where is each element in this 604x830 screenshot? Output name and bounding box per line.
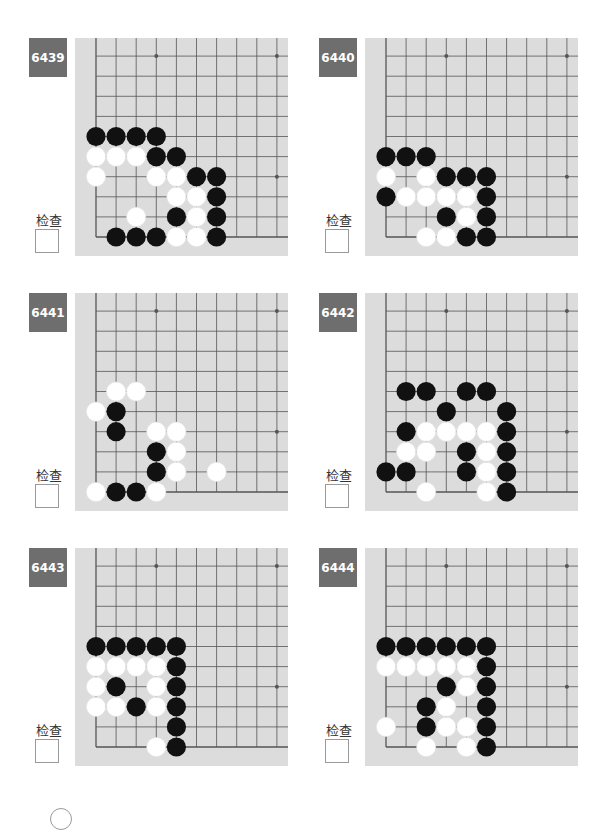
white-stone bbox=[167, 442, 186, 461]
white-stone bbox=[86, 677, 105, 696]
problem-number: 6440 bbox=[319, 38, 357, 77]
white-stone bbox=[86, 657, 105, 676]
white-stone bbox=[107, 697, 126, 716]
white-stone bbox=[147, 657, 166, 676]
check-label: 检查 bbox=[325, 465, 353, 484]
white-stone bbox=[437, 717, 456, 736]
black-stone bbox=[147, 462, 166, 481]
white-stone bbox=[167, 422, 186, 441]
black-stone bbox=[127, 482, 146, 501]
star-point bbox=[444, 564, 448, 568]
check-box[interactable] bbox=[35, 229, 59, 253]
problem-panel: 6443检查 bbox=[29, 548, 299, 768]
white-stone bbox=[477, 462, 496, 481]
go-board bbox=[75, 293, 288, 511]
white-stone bbox=[457, 207, 476, 226]
star-point bbox=[275, 685, 279, 689]
black-stone bbox=[477, 697, 496, 716]
problem-number: 6443 bbox=[29, 548, 67, 587]
black-stone bbox=[497, 442, 516, 461]
white-stone bbox=[147, 482, 166, 501]
star-point bbox=[275, 309, 279, 313]
black-stone bbox=[376, 147, 395, 166]
black-stone bbox=[147, 637, 166, 656]
check-box[interactable] bbox=[325, 229, 349, 253]
star-point bbox=[275, 430, 279, 434]
white-stone bbox=[107, 147, 126, 166]
black-stone bbox=[107, 402, 126, 421]
board-grid bbox=[365, 548, 578, 766]
black-stone bbox=[147, 147, 166, 166]
black-stone bbox=[147, 227, 166, 246]
star-point bbox=[154, 564, 158, 568]
black-stone bbox=[167, 657, 186, 676]
check-box[interactable] bbox=[35, 484, 59, 508]
black-stone bbox=[86, 127, 105, 146]
black-stone bbox=[457, 227, 476, 246]
star-point bbox=[444, 54, 448, 58]
check-label: 检查 bbox=[35, 720, 63, 739]
black-stone bbox=[107, 227, 126, 246]
star-point bbox=[275, 54, 279, 58]
black-stone bbox=[417, 382, 436, 401]
black-stone bbox=[477, 657, 496, 676]
black-stone bbox=[127, 697, 146, 716]
black-stone bbox=[127, 637, 146, 656]
go-board bbox=[365, 548, 578, 766]
white-stone bbox=[127, 207, 146, 226]
black-stone bbox=[457, 382, 476, 401]
star-point bbox=[565, 309, 569, 313]
white-stone bbox=[457, 677, 476, 696]
check-label: 检查 bbox=[325, 720, 353, 739]
black-stone bbox=[107, 127, 126, 146]
black-stone bbox=[167, 717, 186, 736]
black-stone bbox=[457, 637, 476, 656]
black-stone bbox=[477, 717, 496, 736]
white-stone bbox=[417, 187, 436, 206]
white-stone bbox=[457, 187, 476, 206]
check-label: 检查 bbox=[325, 210, 353, 229]
black-stone bbox=[167, 697, 186, 716]
black-stone bbox=[107, 422, 126, 441]
white-stone bbox=[417, 657, 436, 676]
problem-number: 6442 bbox=[319, 293, 357, 332]
white-stone bbox=[86, 697, 105, 716]
white-stone bbox=[417, 167, 436, 186]
black-stone bbox=[397, 382, 416, 401]
black-stone bbox=[397, 637, 416, 656]
go-board bbox=[75, 548, 288, 766]
star-point bbox=[565, 430, 569, 434]
problem-panel: 6439检查 bbox=[29, 38, 299, 258]
go-board bbox=[365, 293, 578, 511]
check-box[interactable] bbox=[35, 739, 59, 763]
white-stone bbox=[417, 482, 436, 501]
star-point bbox=[154, 54, 158, 58]
black-stone bbox=[497, 402, 516, 421]
black-stone bbox=[127, 127, 146, 146]
white-stone bbox=[417, 442, 436, 461]
black-stone bbox=[477, 737, 496, 756]
white-stone bbox=[397, 442, 416, 461]
white-stone bbox=[437, 697, 456, 716]
black-stone bbox=[477, 382, 496, 401]
white-stone bbox=[127, 382, 146, 401]
board-grid bbox=[365, 293, 578, 511]
black-stone bbox=[147, 127, 166, 146]
check-box[interactable] bbox=[325, 739, 349, 763]
black-stone bbox=[167, 677, 186, 696]
problem-panel: 6440检查 bbox=[319, 38, 589, 258]
white-stone bbox=[376, 717, 395, 736]
white-stone bbox=[207, 462, 226, 481]
white-stone bbox=[147, 422, 166, 441]
white-stone bbox=[457, 422, 476, 441]
page-number-circle bbox=[50, 808, 72, 830]
black-stone bbox=[376, 187, 395, 206]
black-stone bbox=[477, 677, 496, 696]
star-point bbox=[565, 685, 569, 689]
black-stone bbox=[167, 147, 186, 166]
check-box[interactable] bbox=[325, 484, 349, 508]
white-stone bbox=[167, 187, 186, 206]
white-stone bbox=[437, 187, 456, 206]
black-stone bbox=[437, 207, 456, 226]
black-stone bbox=[417, 147, 436, 166]
